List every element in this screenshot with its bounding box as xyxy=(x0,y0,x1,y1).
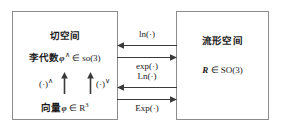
manifold-space-box: 流形空间 R ∈ SO(3) xyxy=(176,11,269,120)
Exp-mapping-label: Exp(·) xyxy=(117,103,177,113)
lie-algebra-equation: 李代数φ∧ ∈ so(3) xyxy=(13,50,117,64)
hat-map-superscript: ∧ xyxy=(48,77,53,84)
tangent-space-title: 切空间 xyxy=(13,28,117,42)
lie-algebra-label: 李代数 xyxy=(29,52,59,63)
lie-algebra-set: so(3) xyxy=(82,53,101,63)
lie-algebra-mapping-diagram: 切空间 李代数φ∧ ∈ so(3) (·)∧ (·)∨ 向量φ ∈ R3 流形空… xyxy=(0,0,281,129)
Ln-mapping-label: Ln(·) xyxy=(117,71,177,81)
vee-map-superscript: ∨ xyxy=(105,77,110,84)
Ln-mapping-arrow-icon xyxy=(117,83,177,92)
manifold-space-title: 流形空间 xyxy=(177,33,268,47)
hat-map-arrow-icon xyxy=(60,72,69,94)
tangent-space-box: 切空间 李代数φ∧ ∈ so(3) (·)∧ (·)∨ 向量φ ∈ R3 xyxy=(12,11,118,120)
rotation-set: SO(3) xyxy=(221,65,243,75)
vector-set-superscript: 3 xyxy=(85,101,88,108)
ln-mapping-label: ln(·) xyxy=(117,29,177,39)
hat-map-label: (·)∧ xyxy=(39,77,53,89)
rotation-member: ∈ xyxy=(211,65,219,75)
vector-label: 向量 xyxy=(41,102,61,113)
vector-equation: 向量φ ∈ R3 xyxy=(13,100,117,114)
lie-algebra-superscript: ∧ xyxy=(65,51,70,58)
vee-map-text: (·) xyxy=(96,79,105,89)
rotation-equation: R ∈ SO(3) xyxy=(177,65,268,75)
vector-member: ∈ xyxy=(69,103,77,113)
vee-map-label: (·)∨ xyxy=(96,77,110,89)
rotation-symbol: R xyxy=(202,65,208,75)
exp-mapping-label: exp(·) xyxy=(117,61,177,71)
hat-map-text: (·) xyxy=(39,79,48,89)
ln-mapping-arrow-icon xyxy=(117,41,177,50)
lie-algebra-member: ∈ xyxy=(72,53,80,63)
vee-map-arrow-icon xyxy=(86,72,95,94)
vector-symbol: φ xyxy=(61,103,66,113)
